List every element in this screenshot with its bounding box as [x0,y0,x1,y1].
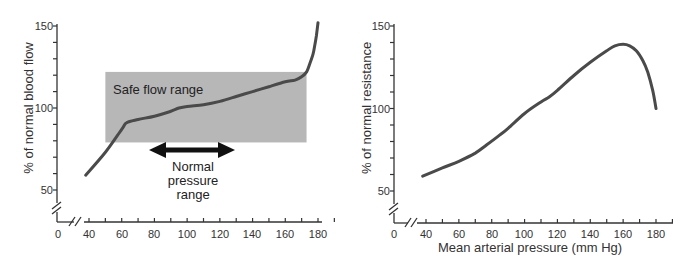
left-y-tick-150: 150 [35,20,53,32]
normal-pressure-range-arrow [149,142,235,158]
left-y-axis-title: % of normal blood flow [21,42,36,174]
resistance-curve [423,44,656,176]
safe-flow-range-label: Safe flow range [113,82,203,97]
left-x-tick-120: 120 [211,228,229,240]
left-x-tick-100: 100 [178,228,196,240]
left-x-tick-80: 80 [148,228,160,240]
left-y-tick-50: 50 [41,184,53,196]
left-x-tick-140: 140 [243,228,261,240]
normal-pressure-label-line3: range [176,187,209,202]
right-x-tick-180: 180 [647,228,665,240]
left-x-tick-160: 160 [276,228,294,240]
right-y-tick-150: 150 [372,20,390,32]
left-x-tick-180: 180 [309,228,327,240]
right-x-axis-title: Mean arterial pressure (mm Hg) [438,240,622,255]
right-x-tick-40: 40 [420,228,432,240]
right-x-tick-60: 60 [453,228,465,240]
right-y-tick-100: 100 [372,103,390,115]
right-x-tick-120: 120 [548,228,566,240]
left-x-tick-60: 60 [116,228,128,240]
right-x-tick-160: 160 [614,228,632,240]
normal-pressure-label-line1: Normal [172,159,214,174]
right-x-tick-0: 0 [391,228,397,240]
figure: Safe flow range 150 100 50 0 40 60 80 10… [0,0,686,261]
left-chart: Safe flow range 150 100 50 0 40 60 80 10… [21,20,334,240]
right-y-tick-50: 50 [378,185,390,197]
right-x-tick-80: 80 [486,228,498,240]
right-y-axis [389,24,673,227]
right-x-tick-100: 100 [515,228,533,240]
right-x-tick-140: 140 [581,228,599,240]
left-y-tick-100: 100 [35,102,53,114]
normal-pressure-label-line2: pressure [168,173,219,188]
left-x-tick-0: 0 [55,228,61,240]
right-chart: 150 100 50 0 40 60 80 100 120 140 160 18… [359,20,673,255]
right-y-axis-title: % of normal resistance [359,42,374,174]
left-x-tick-40: 40 [83,228,95,240]
